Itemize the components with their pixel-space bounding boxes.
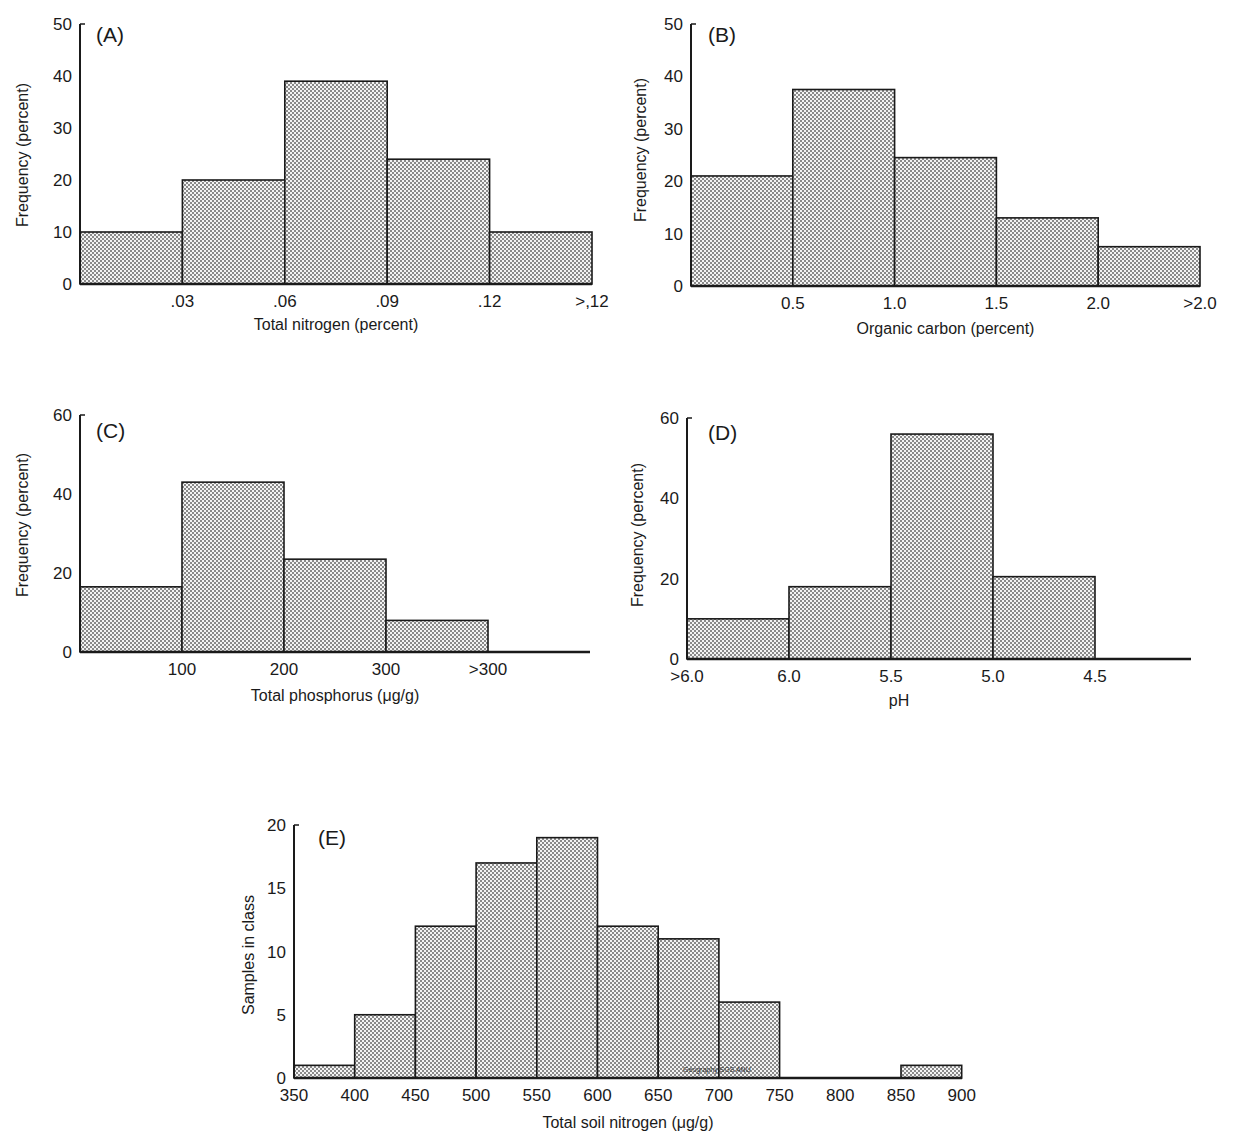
histogram-bar — [285, 81, 387, 284]
x-tick-label: 400 — [341, 1086, 369, 1105]
histogram-bar — [80, 232, 182, 284]
x-axis-title: Total phosphorus (μg/g) — [251, 687, 419, 704]
histogram-bar — [658, 939, 719, 1078]
x-tick-label: >2.0 — [1183, 294, 1217, 313]
y-tick-label: 60 — [660, 409, 679, 428]
x-tick-label: 1.5 — [985, 294, 1009, 313]
x-tick-label: 700 — [705, 1086, 733, 1105]
histogram-bar — [901, 1065, 962, 1078]
x-tick-label: 1.0 — [883, 294, 907, 313]
y-axis-title: Frequency (percent) — [14, 83, 31, 227]
y-tick-label: 30 — [664, 120, 683, 139]
histogram-panel-a: 01020304050.03.06.09.12>,12Total nitroge… — [14, 15, 609, 333]
histogram-bar — [476, 863, 537, 1078]
x-tick-label: 4.5 — [1083, 667, 1107, 686]
histogram-bar — [537, 838, 598, 1078]
histogram-bar — [687, 619, 789, 659]
x-tick-label: 600 — [583, 1086, 611, 1105]
x-tick-label: 300 — [372, 660, 400, 679]
histogram-bar — [294, 1065, 355, 1078]
x-tick-label: .09 — [375, 292, 399, 311]
x-tick-label: .03 — [171, 292, 195, 311]
panel-label: (E) — [318, 826, 346, 849]
x-tick-label: 500 — [462, 1086, 490, 1105]
y-tick-label: 20 — [664, 172, 683, 191]
x-axis-title: Organic carbon (percent) — [857, 320, 1035, 337]
histogram-bar — [895, 158, 997, 286]
histogram-panel-d: 0204060>6.06.05.55.04.5pHFrequency (perc… — [629, 409, 1191, 709]
x-tick-label: 6.0 — [777, 667, 801, 686]
y-tick-label: 40 — [664, 67, 683, 86]
histogram-bar — [1098, 247, 1200, 286]
histogram-bar — [182, 180, 284, 284]
watermark-annotation: Geography SGS ANU — [683, 1066, 751, 1074]
y-tick-label: 15 — [267, 879, 286, 898]
x-axis-title: pH — [889, 692, 909, 709]
x-tick-label: 850 — [887, 1086, 915, 1105]
y-tick-label: 5 — [277, 1006, 286, 1025]
y-tick-label: 20 — [53, 171, 72, 190]
x-tick-label: 750 — [765, 1086, 793, 1105]
y-tick-label: 10 — [53, 223, 72, 242]
y-axis-title: Frequency (percent) — [632, 78, 649, 222]
histogram-bar — [598, 926, 659, 1078]
histogram-panel-c: 0204060100200300>300Total phosphorus (μg… — [14, 406, 590, 704]
histogram-bar — [415, 926, 476, 1078]
figure-canvas: 01020304050.03.06.09.12>,12Total nitroge… — [0, 0, 1233, 1147]
histogram-panel-b: 010203040500.51.01.52.0>2.0Organic carbo… — [632, 15, 1217, 337]
y-tick-label: 50 — [664, 15, 683, 34]
y-tick-label: 0 — [63, 275, 72, 294]
x-tick-label: 5.0 — [981, 667, 1005, 686]
y-tick-label: 10 — [267, 943, 286, 962]
y-tick-label: 50 — [53, 15, 72, 34]
x-axis-title: Total soil nitrogen (μg/g) — [542, 1114, 713, 1131]
y-tick-label: 40 — [53, 485, 72, 504]
histogram-bar — [355, 1015, 416, 1078]
histogram-bar — [993, 577, 1095, 659]
y-tick-label: 10 — [664, 225, 683, 244]
x-tick-label: 100 — [168, 660, 196, 679]
x-tick-label: 350 — [280, 1086, 308, 1105]
x-tick-label: 0.5 — [781, 294, 805, 313]
x-tick-label: .06 — [273, 292, 297, 311]
histogram-bar — [793, 90, 895, 287]
y-tick-label: 40 — [660, 489, 679, 508]
x-tick-label: 650 — [644, 1086, 672, 1105]
x-tick-label: 200 — [270, 660, 298, 679]
y-tick-label: 20 — [53, 564, 72, 583]
histogram-bar — [789, 587, 891, 659]
histogram-panel-e: 0510152035040045050055060065070075080085… — [240, 816, 976, 1131]
x-tick-label: .12 — [478, 292, 502, 311]
y-tick-label: 20 — [660, 570, 679, 589]
histogram-bar — [891, 434, 993, 659]
y-axis-title: Frequency (percent) — [629, 463, 646, 607]
x-tick-label: 550 — [523, 1086, 551, 1105]
y-tick-label: 60 — [53, 406, 72, 425]
x-tick-label: 5.5 — [879, 667, 903, 686]
panel-label: (B) — [708, 23, 736, 46]
x-axis-title: Total nitrogen (percent) — [254, 316, 419, 333]
x-tick-label: 900 — [948, 1086, 976, 1105]
histogram-bar — [284, 559, 386, 652]
y-tick-label: 30 — [53, 119, 72, 138]
x-tick-label: >,12 — [575, 292, 609, 311]
x-tick-label: >300 — [469, 660, 507, 679]
histogram-bar — [386, 620, 488, 652]
x-tick-label: 800 — [826, 1086, 854, 1105]
x-tick-label: 450 — [401, 1086, 429, 1105]
panel-label: (D) — [708, 421, 737, 444]
y-axis-title: Samples in class — [240, 895, 257, 1015]
histogram-bar — [490, 232, 592, 284]
x-tick-label: 2.0 — [1086, 294, 1110, 313]
x-tick-label: >6.0 — [670, 667, 704, 686]
histogram-bar — [80, 587, 182, 652]
y-axis-title: Frequency (percent) — [14, 453, 31, 597]
panel-label: (A) — [96, 23, 124, 46]
y-tick-label: 0 — [63, 643, 72, 662]
panel-label: (C) — [96, 419, 125, 442]
y-tick-label: 20 — [267, 816, 286, 835]
histogram-bar — [996, 218, 1098, 286]
histogram-bar — [182, 482, 284, 652]
histogram-bar — [691, 176, 793, 286]
y-tick-label: 40 — [53, 67, 72, 86]
